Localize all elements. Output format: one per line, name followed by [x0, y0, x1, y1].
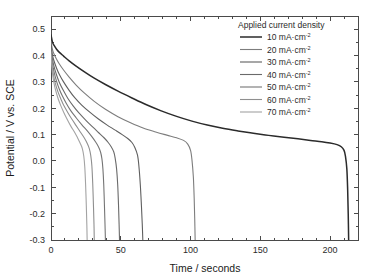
- legend-label-60: 60 mA·cm-2: [267, 95, 311, 105]
- legend-title: Applied current density: [238, 20, 325, 30]
- x-tick-label: 200: [323, 245, 338, 255]
- x-tick-label: 0: [48, 245, 53, 255]
- y-axis-title: Potential / V vs. SCE: [4, 79, 16, 176]
- series-line-30: [51, 44, 143, 240]
- chart-figure: 050100150200 -0.3-0.2-0.10.00.10.20.30.4…: [0, 0, 370, 280]
- y-axis-tick-labels: -0.3-0.2-0.10.00.10.20.30.40.5: [29, 24, 45, 245]
- y-tick-label: -0.2: [29, 209, 45, 219]
- plot-frame: [51, 16, 358, 240]
- legend: Applied current density 10 mA·cm-220 mA·…: [238, 20, 325, 117]
- y-tick-label: 0.4: [32, 51, 45, 61]
- series-line-40: [51, 47, 120, 240]
- series-line-60: [51, 52, 94, 240]
- x-tick-label: 150: [253, 245, 268, 255]
- y-tick-label: 0.2: [32, 104, 45, 114]
- x-tick-label: 50: [116, 245, 126, 255]
- legend-label-30: 30 mA·cm-2: [267, 57, 311, 67]
- legend-entries: 10 mA·cm-220 mA·cm-230 mA·cm-240 mA·cm-2…: [240, 32, 311, 117]
- potential-vs-time-chart: 050100150200 -0.3-0.2-0.10.00.10.20.30.4…: [0, 0, 370, 280]
- legend-label-70: 70 mA·cm-2: [267, 107, 311, 117]
- y-tick-label: -0.3: [29, 235, 45, 245]
- y-tick-label: 0.3: [32, 77, 45, 87]
- x-axis-tick-labels: 050100150200: [48, 245, 337, 255]
- series-line-20: [51, 41, 195, 240]
- y-tick-label: 0.5: [32, 24, 45, 34]
- x-tick-label: 100: [183, 245, 198, 255]
- series-line-50: [51, 49, 105, 240]
- y-axis-ticks: [51, 16, 358, 240]
- legend-label-20: 20 mA·cm-2: [267, 45, 311, 55]
- legend-label-50: 50 mA·cm-2: [267, 82, 311, 92]
- legend-label-40: 40 mA·cm-2: [267, 70, 311, 80]
- y-tick-label: 0.0: [32, 156, 45, 166]
- x-axis-title: Time / seconds: [170, 262, 241, 274]
- y-tick-label: -0.1: [29, 183, 45, 193]
- legend-label-10: 10 mA·cm-2: [267, 32, 311, 42]
- x-axis-ticks: [51, 16, 358, 240]
- y-tick-label: 0.1: [32, 130, 45, 140]
